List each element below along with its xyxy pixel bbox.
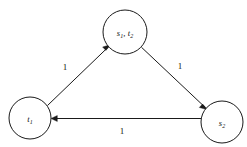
edge-t1-to-s1t2-weight: 1 bbox=[63, 63, 68, 72]
node-s1-t2-label: s1, t2 bbox=[117, 29, 133, 38]
node-s1-t2-label-t-sub: 2 bbox=[130, 32, 133, 38]
graph-figure: s1, t2 t1 s2 1 1 1 bbox=[0, 0, 247, 147]
node-s2-label-s-sub: 2 bbox=[222, 122, 225, 128]
edge-s2-to-t1-arrowhead bbox=[51, 116, 57, 122]
node-s2-label: s2 bbox=[219, 119, 225, 128]
edge-t1-to-s1t2-line bbox=[48, 47, 109, 106]
edge-s1t2-to-s2-weight: 1 bbox=[178, 62, 183, 71]
node-s1-t2-label-s-sub: 1 bbox=[120, 32, 123, 38]
edge-s2-to-t1-group bbox=[51, 116, 201, 122]
edge-s1t2-to-s2-line bbox=[142, 47, 206, 107]
node-t1-label: t1 bbox=[27, 115, 32, 124]
edge-s2-to-t1-weight: 1 bbox=[120, 127, 125, 136]
edge-s1t2-to-s2-group bbox=[142, 47, 208, 110]
edge-t1-to-s1t2-group bbox=[48, 45, 111, 106]
